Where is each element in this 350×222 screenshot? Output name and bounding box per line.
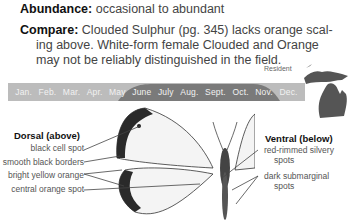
- label-line: dark submarginal: [264, 171, 329, 181]
- ventral-heading: Ventral (below): [265, 133, 333, 144]
- month-jan: Jan.: [15, 87, 32, 97]
- label-line: spots: [264, 155, 294, 165]
- butterfly-illustration: [95, 100, 255, 222]
- label-central-orange-spot: central orange spot: [11, 184, 84, 194]
- label-bright-yellow-orange: bright yellow orange: [8, 170, 84, 180]
- label-dark-submarginal-spots: dark submarginal spots: [264, 171, 329, 191]
- month-aug: Aug.: [180, 87, 198, 97]
- range-status: Resident: [264, 65, 292, 72]
- month-feb: Feb.: [39, 87, 57, 97]
- compare-line-2: ing above. White-form female Clouded and…: [20, 38, 340, 53]
- month-apr: Apr.: [87, 87, 103, 97]
- compare-line-1: Clouded Sulphur (pg. 345) lacks orange s…: [82, 23, 333, 37]
- label-red-rimmed-silvery-spots: red-rimmed silvery spots: [264, 145, 334, 165]
- michigan-map-icon: [302, 60, 350, 120]
- dorsal-heading: Dorsal (above): [14, 130, 80, 141]
- compare-line-3: may not be reliably distinguished in the…: [20, 53, 340, 68]
- month-may: May: [109, 87, 126, 97]
- abundance-line: Abundance: occasional to abundant: [20, 2, 224, 17]
- compare-label: Compare:: [20, 23, 78, 37]
- flight-period-bar: Jan. Feb. Mar. Apr. May June July Aug. S…: [8, 83, 305, 101]
- month-mar: Mar.: [63, 87, 80, 97]
- month-labels: Jan. Feb. Mar. Apr. May June July Aug. S…: [8, 83, 305, 101]
- month-sept: Sept.: [205, 87, 226, 97]
- month-june: June: [132, 87, 151, 97]
- label-smooth-black-borders: smooth black borders: [3, 157, 84, 167]
- abundance-label: Abundance:: [20, 2, 92, 16]
- label-line: spots: [264, 181, 294, 191]
- month-oct: Oct.: [232, 87, 248, 97]
- month-nov: Nov.: [255, 87, 273, 97]
- abundance-value: occasional to abundant: [96, 2, 225, 16]
- month-dec: Dec.: [279, 87, 297, 97]
- label-black-cell-spot: black cell spot: [31, 143, 84, 153]
- label-line: red-rimmed silvery: [264, 145, 334, 155]
- month-july: July: [158, 87, 174, 97]
- compare-paragraph: Compare: Clouded Sulphur (pg. 345) lacks…: [20, 23, 340, 68]
